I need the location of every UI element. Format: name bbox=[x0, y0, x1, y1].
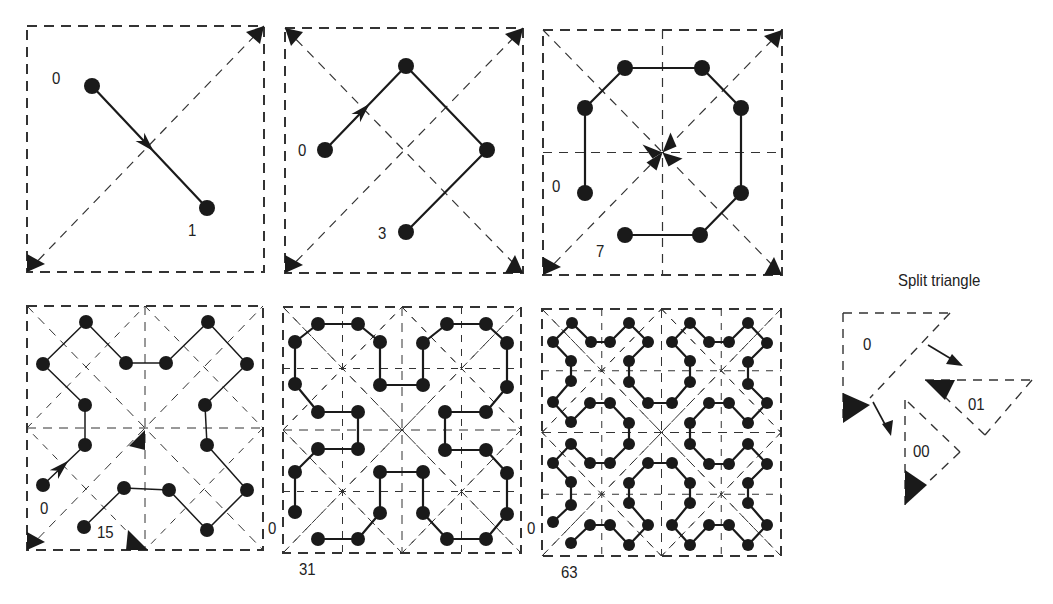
curve-node bbox=[200, 438, 214, 452]
curve-node bbox=[162, 483, 176, 497]
curve-node bbox=[566, 317, 578, 329]
curve-node bbox=[604, 519, 616, 531]
curve-node bbox=[565, 499, 577, 511]
curve-node bbox=[723, 458, 735, 470]
curve-node bbox=[642, 519, 654, 531]
curve-node bbox=[742, 317, 754, 329]
curve-node bbox=[585, 336, 597, 348]
curve-node bbox=[311, 405, 325, 419]
panel4-end-label: 15 bbox=[97, 524, 114, 541]
curve-node bbox=[694, 60, 710, 76]
curve-node bbox=[79, 315, 93, 329]
curve-node bbox=[604, 336, 616, 348]
curve-node bbox=[479, 405, 493, 419]
curve-node bbox=[666, 519, 678, 531]
curve-node bbox=[547, 336, 559, 348]
curve-node bbox=[733, 100, 749, 116]
curve-node bbox=[684, 355, 696, 367]
curve-node bbox=[742, 477, 754, 489]
curve-node bbox=[703, 336, 715, 348]
triangle-marker-icon bbox=[505, 28, 523, 46]
curve-node bbox=[703, 458, 715, 470]
split-triangle-marker-icon bbox=[843, 393, 870, 423]
sierpinski-curve-diagram bbox=[0, 0, 1053, 604]
curve-node bbox=[742, 356, 754, 368]
curve-node bbox=[240, 483, 254, 497]
curve-node bbox=[642, 457, 654, 469]
curve-node bbox=[288, 505, 302, 519]
curve-node bbox=[500, 507, 514, 521]
curve-node bbox=[201, 315, 215, 329]
curve-node bbox=[500, 336, 514, 350]
curve-node bbox=[440, 317, 454, 331]
curve-node bbox=[565, 355, 577, 367]
curve-node bbox=[577, 100, 593, 116]
curve-node bbox=[479, 443, 493, 457]
split-triangle-marker-icon bbox=[905, 470, 927, 505]
curve-node bbox=[351, 317, 365, 331]
curve-node bbox=[77, 520, 91, 534]
curve-node bbox=[742, 539, 754, 551]
curve-node bbox=[617, 60, 633, 76]
curve-node bbox=[398, 58, 414, 74]
panel1-end-label: 1 bbox=[188, 222, 196, 239]
diagonal-guide bbox=[27, 26, 264, 272]
curve-node bbox=[373, 506, 387, 520]
curve-node bbox=[311, 532, 325, 546]
curve-node bbox=[288, 377, 302, 391]
curve-node bbox=[623, 539, 635, 551]
curve-node bbox=[565, 537, 577, 549]
curve-node bbox=[684, 539, 696, 551]
curve-node bbox=[703, 397, 715, 409]
curve-node bbox=[288, 335, 302, 349]
panel6-start-label: 0 bbox=[527, 520, 535, 537]
curve-node bbox=[742, 378, 754, 390]
curve-node bbox=[351, 405, 365, 419]
curve-node bbox=[565, 416, 577, 428]
curve-node bbox=[623, 438, 635, 450]
curve-node bbox=[199, 200, 215, 216]
panel3-end-label: 7 bbox=[596, 243, 604, 260]
split-triangle-marker-icon bbox=[925, 380, 955, 400]
curve-node bbox=[723, 336, 735, 348]
curve-node bbox=[78, 398, 92, 412]
curve-node bbox=[416, 506, 430, 520]
split-triangle-label-0: 0 bbox=[863, 336, 871, 353]
panel2-end-label: 3 bbox=[378, 225, 386, 242]
curve-node bbox=[119, 356, 133, 370]
curve-node bbox=[159, 356, 173, 370]
curve-node bbox=[742, 497, 754, 509]
curve-node bbox=[623, 497, 635, 509]
curve-node bbox=[604, 397, 616, 409]
curve-node bbox=[117, 481, 131, 495]
curve-node bbox=[577, 185, 593, 201]
center-marker-icon bbox=[663, 153, 683, 167]
curve-node bbox=[36, 357, 50, 371]
curve-node bbox=[78, 438, 92, 452]
curve-node bbox=[438, 443, 452, 457]
curve-node bbox=[742, 417, 754, 429]
split-triangle-label-00: 00 bbox=[913, 443, 930, 460]
curve-node bbox=[584, 397, 596, 409]
curve-node bbox=[311, 317, 325, 331]
curve-node bbox=[398, 224, 414, 240]
curve-node bbox=[684, 417, 696, 429]
curve-node bbox=[198, 398, 212, 412]
curve-node bbox=[666, 457, 678, 469]
curve-node bbox=[288, 465, 302, 479]
curve-node bbox=[684, 376, 696, 388]
curve-node bbox=[733, 185, 749, 201]
curve-node bbox=[761, 397, 773, 409]
curve-node bbox=[666, 336, 678, 348]
curve-node bbox=[200, 523, 214, 537]
split-triangle-edge bbox=[925, 452, 960, 485]
panel1-start-label: 0 bbox=[52, 70, 60, 87]
split-triangle-edge bbox=[985, 380, 1032, 435]
curve-node bbox=[416, 378, 430, 392]
curve-node bbox=[311, 442, 325, 456]
curve-node bbox=[684, 317, 696, 329]
curve-node bbox=[438, 405, 452, 419]
curve-node bbox=[623, 417, 635, 429]
curve-node bbox=[761, 337, 773, 349]
curve-node bbox=[742, 438, 754, 450]
